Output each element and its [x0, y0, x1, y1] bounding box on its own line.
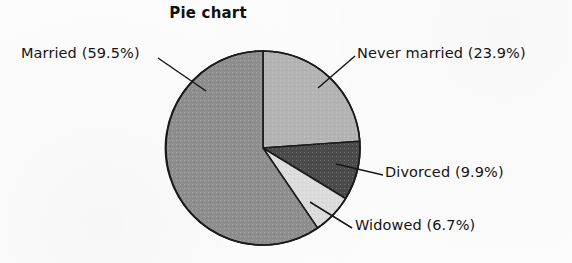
pie-chart-figure: Pie chart — [0, 0, 572, 263]
pie-graphic — [0, 0, 572, 263]
pie-label-married: Married (59.5%) — [21, 45, 140, 61]
pie-slice-never-married[interactable] — [263, 51, 360, 148]
pie-label-never-married: Never married (23.9%) — [357, 45, 526, 61]
pie-label-divorced: Divorced (9.9%) — [385, 164, 504, 180]
pie-slice-never-married-texture — [263, 51, 360, 148]
pie-label-widowed: Widowed (6.7%) — [355, 217, 475, 233]
